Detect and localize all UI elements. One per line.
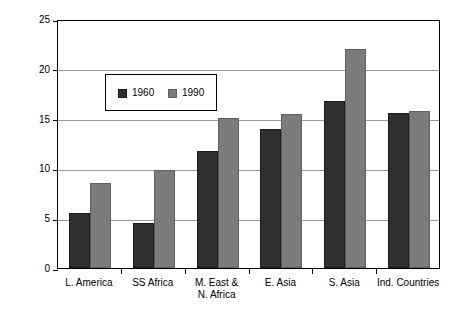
bar-chart: 0510152025 L. AmericaSS AfricaM. East & …: [0, 0, 458, 311]
y-axis-tick-mark: [53, 270, 58, 271]
bar-1990-e-asia: [281, 114, 302, 268]
y-axis-tick-label: 10: [39, 164, 50, 174]
x-axis-tick-mark: [121, 269, 122, 274]
legend-label-1960: 1960: [132, 88, 154, 98]
dark-swatch-icon: [118, 89, 127, 98]
bar-1990-l-america: [90, 183, 111, 268]
bar-1990-s-asia: [345, 49, 366, 268]
y-axis-tick-labels: 0510152025: [26, 20, 50, 269]
y-axis-tick-label: 15: [39, 115, 50, 125]
legend-entry-1960: 1960: [118, 88, 154, 98]
legend: 1960 1990: [105, 74, 217, 111]
bar-1960-ss-africa: [133, 223, 154, 268]
x-axis-label-ind-countries: Ind. Countries: [366, 277, 450, 289]
bar-1990-m-east-n-africa: [218, 118, 239, 268]
plot-area: [57, 20, 440, 269]
bars-layer: [58, 21, 439, 268]
y-axis-tick-label: 20: [39, 65, 50, 75]
bar-1960-m-east-n-africa: [197, 151, 218, 268]
legend-entry-1990: 1990: [168, 88, 204, 98]
x-axis-tick-mark: [185, 269, 186, 274]
bar-1960-e-asia: [260, 129, 281, 268]
x-axis-tick-mark: [376, 269, 377, 274]
bar-1960-l-america: [69, 213, 90, 268]
bar-1990-ind-countries: [409, 111, 430, 268]
y-axis-tick-label: 0: [44, 264, 50, 274]
y-axis-tick-label: 5: [44, 214, 50, 224]
bar-1990-ss-africa: [154, 170, 175, 268]
y-axis-tick-label: 25: [39, 15, 50, 25]
x-axis-tick-mark: [249, 269, 250, 274]
legend-label-1990: 1990: [182, 88, 204, 98]
x-axis-tick-mark: [312, 269, 313, 274]
gray-swatch-icon: [168, 89, 177, 98]
bar-1960-s-asia: [324, 101, 345, 268]
bar-1960-ind-countries: [388, 113, 409, 268]
